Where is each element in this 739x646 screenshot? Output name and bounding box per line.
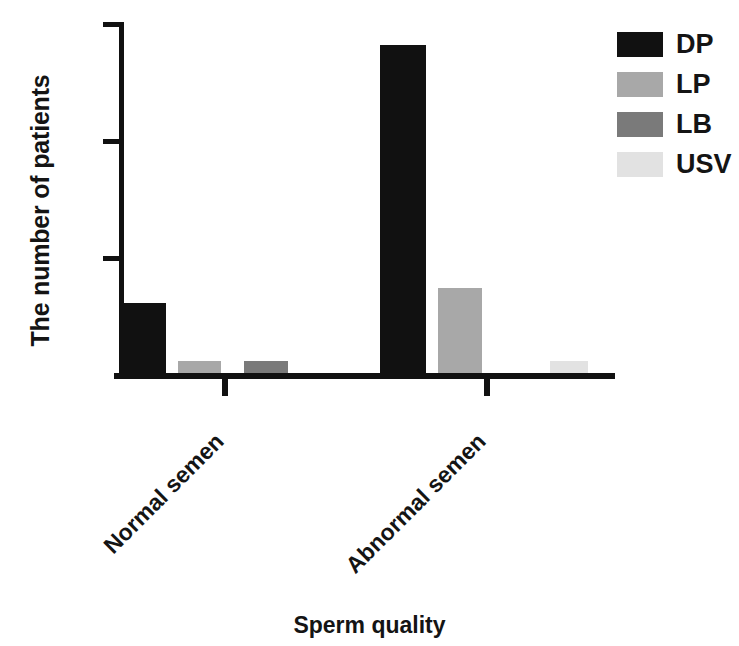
legend-swatch-lb-icon — [617, 112, 663, 137]
legend-item-usv: USV — [617, 144, 739, 184]
x-axis-line — [114, 373, 615, 379]
bar-dp-abnormal-semen — [380, 45, 426, 373]
x-axis-title: Sperm quality — [0, 612, 739, 639]
x-axis-tick-abnormal-semen — [484, 379, 490, 396]
y-axis-tick-20 — [103, 139, 119, 144]
bar-usv-abnormal-semen — [550, 361, 588, 373]
legend-label-lb: LB — [676, 111, 712, 138]
y-axis-tick-30 — [103, 22, 119, 27]
bar-lp-normal-semen — [178, 361, 221, 373]
bar-chart-figure: The number of patients 30 20 10 0 Normal… — [0, 0, 739, 646]
legend-item-lp: LP — [617, 64, 739, 104]
bar-dp-normal-semen — [120, 303, 166, 373]
legend-label-lp: LP — [676, 71, 711, 98]
legend-label-dp: DP — [676, 31, 714, 58]
legend-label-usv: USV — [676, 151, 732, 178]
legend-swatch-usv-icon — [617, 152, 663, 177]
bar-lp-abnormal-semen — [438, 288, 482, 373]
legend-swatch-lp-icon — [617, 72, 663, 97]
legend-item-dp: DP — [617, 24, 739, 64]
bar-lb-normal-semen — [244, 361, 288, 373]
x-axis-tick-normal-semen — [222, 379, 228, 396]
x-category-label-normal-semen: Normal semen — [27, 428, 230, 631]
legend-swatch-dp-icon — [617, 32, 663, 57]
y-axis-title: The number of patients — [26, 31, 55, 391]
x-category-label-abnormal-semen: Abnormal semen — [289, 428, 492, 631]
y-axis-tick-10 — [103, 256, 119, 261]
legend-item-lb: LB — [617, 104, 739, 144]
plot-area — [119, 22, 615, 373]
legend: DP LP LB USV — [617, 24, 739, 184]
